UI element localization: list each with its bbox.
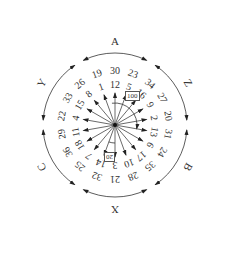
center-point xyxy=(113,123,117,127)
group-label-x: X xyxy=(111,204,119,215)
group-arc-x xyxy=(83,190,146,197)
angle-label-100: 100 xyxy=(125,91,140,101)
ray-label-outer: 21 xyxy=(110,174,120,184)
phasor-diagram: 1230523163492722013316241735102832114327… xyxy=(0,0,226,256)
ray-label-outer: 30 xyxy=(110,66,120,76)
ray-label-inner: 12 xyxy=(110,80,120,90)
ray-label-inner: 13 xyxy=(149,126,161,138)
ray-label-outer: 20 xyxy=(162,110,174,122)
angle-arc-20 xyxy=(109,142,115,143)
ray-label-outer: 31 xyxy=(162,129,174,141)
ray-arrow xyxy=(94,125,115,150)
ray-arrow xyxy=(115,125,126,155)
angle-label-20: 20 xyxy=(104,152,115,162)
ray-arrow xyxy=(104,125,115,155)
ray-label-outer: 22 xyxy=(56,110,68,122)
ray-arrow xyxy=(94,100,115,125)
group-label-a: A xyxy=(111,36,119,47)
ray-arrow xyxy=(115,125,136,150)
group-arc-a xyxy=(83,53,146,60)
ray-arrow xyxy=(104,95,115,125)
ray-arrow xyxy=(115,100,136,125)
ray-label-inner: 11 xyxy=(70,126,82,137)
